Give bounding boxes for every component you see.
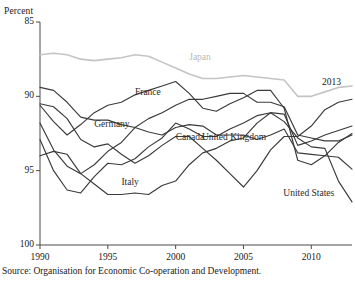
- y-tick-95: 90: [8, 90, 34, 100]
- series-label-france: France: [135, 87, 161, 97]
- x-tick-2005: 2005: [223, 252, 263, 262]
- y-tick-100: 85: [8, 16, 34, 26]
- source-note: Source: Organisation for Economic Co-ope…: [2, 266, 261, 276]
- series-label-italy: Italy: [121, 177, 138, 187]
- series-label-united-kingdom: United Kingdom: [202, 132, 266, 142]
- series-label-germany: Germany: [94, 119, 129, 129]
- x-tick-2000: 2000: [156, 252, 196, 262]
- series-label-canada: Canada: [176, 132, 205, 142]
- y-tick-90: 95: [8, 165, 34, 175]
- end-year-annotation: 2013: [322, 77, 341, 87]
- plot-area: [0, 0, 355, 287]
- y-tick-85: 100: [8, 239, 34, 249]
- series-label-japan: Japan: [189, 52, 211, 62]
- x-tick-1990: 1990: [20, 252, 60, 262]
- x-tick-1995: 1995: [88, 252, 128, 262]
- x-tick-2010: 2010: [291, 252, 331, 262]
- series-label-united-states: United States: [283, 188, 334, 198]
- employment-rate-line-chart: Percent 100959085 19901995200020052010 J…: [0, 0, 355, 287]
